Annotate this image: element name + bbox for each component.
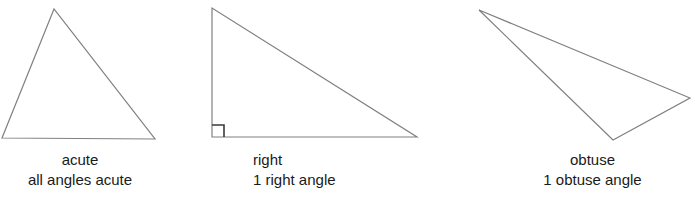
acute-triangle-shape [2, 9, 155, 139]
obtuse-triangle-shape [479, 10, 690, 140]
right-triangle-shape [212, 8, 417, 137]
right-triangle-name: right [253, 150, 336, 170]
right-triangle-description: 1 right angle [253, 170, 336, 190]
acute-triangle-name: acute [0, 150, 160, 170]
acute-triangle-caption: acute all angles acute [0, 150, 160, 190]
obtuse-triangle-name: obtuse [500, 150, 685, 170]
obtuse-triangle-description: 1 obtuse angle [500, 170, 685, 190]
right-triangle-caption: right 1 right angle [253, 150, 336, 190]
obtuse-triangle-caption: obtuse 1 obtuse angle [500, 150, 685, 190]
acute-triangle-description: all angles acute [0, 170, 160, 190]
right-angle-marker-icon [212, 125, 224, 137]
